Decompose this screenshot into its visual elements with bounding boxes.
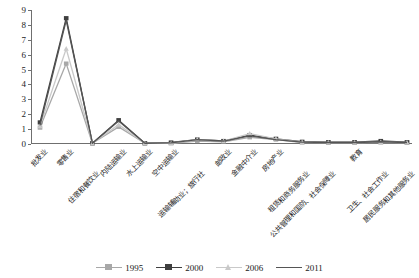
x-axis-label: 邮政业 <box>213 148 233 168</box>
legend-swatch-2006 <box>216 263 242 272</box>
x-axis-label: 内陆运输业 <box>98 148 128 178</box>
chart-legend: 1995200020062011 <box>0 262 419 272</box>
legend-swatch-1995 <box>96 263 122 272</box>
legend-item-1995[interactable]: 1995 <box>96 262 143 272</box>
legend-item-2006[interactable]: 2006 <box>216 262 263 272</box>
legend-swatch-2011 <box>276 263 302 272</box>
x-axis-label: 教育 <box>349 148 364 163</box>
x-axis-label: 房地产业 <box>260 148 285 173</box>
x-axis-label: 住宿和餐饮业 <box>67 170 102 205</box>
x-axis-label: 居民服务和其他服务业 <box>362 170 416 224</box>
x-axis-label: 零售业 <box>56 148 76 168</box>
legend-label: 2000 <box>185 263 203 273</box>
chart-container: 0123456789 批发业零售业住宿和餐饮业内陆运输业水上运输业空中运输业运输… <box>0 0 419 278</box>
legend-label: 2006 <box>245 263 263 273</box>
legend-swatch-2000 <box>156 263 182 272</box>
legend-item-2000[interactable]: 2000 <box>156 262 203 272</box>
x-axis-label: 批发业 <box>29 148 49 168</box>
legend-label: 1995 <box>125 263 143 273</box>
legend-label: 2011 <box>305 263 323 273</box>
legend-item-2011[interactable]: 2011 <box>276 262 323 272</box>
x-axis-label: 运输辅助业；旅行社 <box>157 170 207 220</box>
x-axis-labels: 批发业零售业住宿和餐饮业内陆运输业水上运输业空中运输业运输辅助业；旅行社邮政业金… <box>0 0 419 278</box>
